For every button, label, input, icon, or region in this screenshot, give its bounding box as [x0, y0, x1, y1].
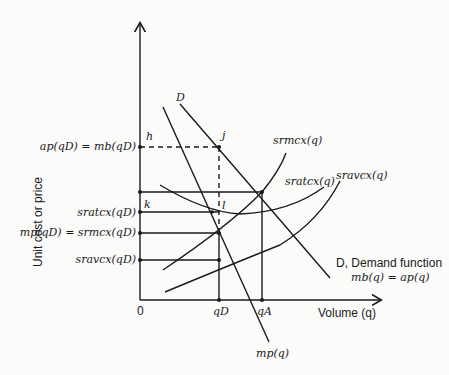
- point-h: h: [146, 131, 153, 142]
- label-mb-ap: mb(q) = ap(q): [351, 272, 430, 283]
- diagram-canvas: [0, 0, 449, 375]
- x-axis-label: Volume (q): [318, 307, 376, 319]
- label-srmc: srmcx(q): [273, 135, 322, 146]
- label-demand-function: D, Demand function: [336, 257, 442, 269]
- point-k: k: [144, 199, 151, 210]
- origin-label: 0: [137, 305, 144, 317]
- tick-sravc: sravcx(qD): [76, 254, 136, 265]
- tick-mp-srmc: mp(qD) = srmcx(qD): [20, 227, 136, 238]
- label-mp: mp(q): [256, 348, 289, 359]
- label-D: D: [176, 92, 185, 103]
- economics-diagram: Unit cost or price ap(qD) = mb(qD) sratc…: [0, 0, 449, 375]
- label-sratc: sratcx(q): [285, 176, 335, 187]
- tick-sratc: sratcx(qD): [77, 207, 136, 218]
- demand-curve: [180, 104, 330, 278]
- point-l: l: [222, 200, 226, 211]
- tick-ap-mb: ap(qD) = mb(qD): [40, 141, 136, 152]
- tick-qA: qA: [257, 306, 272, 317]
- sravc-curve: [165, 181, 340, 292]
- sratc-curve: [160, 185, 324, 214]
- point-j: j: [222, 130, 225, 141]
- y-axis-label: Unit cost or price: [31, 162, 45, 282]
- label-sravc: sravcx(q): [336, 170, 388, 181]
- tick-qD: qD: [213, 306, 229, 317]
